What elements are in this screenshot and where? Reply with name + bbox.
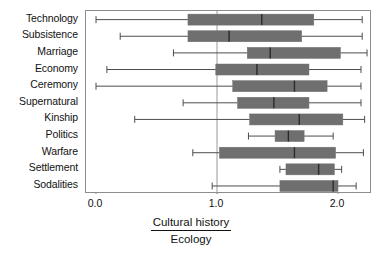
box-rect bbox=[286, 164, 334, 175]
box-rect bbox=[275, 131, 304, 142]
x-axis-tick-labels: 0.01.02.0 bbox=[0, 197, 382, 211]
box-rect bbox=[233, 81, 327, 92]
category-label-subsistence: Subsistence bbox=[22, 29, 78, 40]
category-label-settlement: Settlement bbox=[29, 162, 78, 173]
category-label-marriage: Marriage bbox=[37, 46, 78, 57]
category-label-technology: Technology bbox=[26, 13, 78, 24]
fraction-denominator: Ecology bbox=[151, 231, 232, 246]
x-axis-title: Cultural history Ecology bbox=[0, 215, 382, 247]
box-group-technology bbox=[96, 14, 362, 25]
box-rect bbox=[280, 180, 338, 191]
box-group-warfare bbox=[193, 147, 364, 158]
boxplot-series bbox=[86, 11, 372, 194]
fraction-numerator: Cultural history bbox=[151, 215, 232, 231]
box-group-settlement bbox=[280, 164, 342, 175]
box-rect bbox=[250, 114, 343, 125]
category-label-economy: Economy bbox=[35, 63, 78, 74]
plot-area bbox=[85, 10, 371, 193]
x-tick-1.0: 1.0 bbox=[209, 197, 224, 209]
box-group-supernatural bbox=[183, 97, 361, 108]
box-rect bbox=[188, 14, 314, 25]
box-group-politics bbox=[248, 131, 333, 142]
box-group-marriage bbox=[173, 47, 367, 58]
category-label-kinship: Kinship bbox=[44, 112, 78, 123]
category-label-supernatural: Supernatural bbox=[19, 96, 78, 107]
category-label-ceremony: Ceremony bbox=[30, 79, 78, 90]
box-group-economy bbox=[107, 64, 361, 75]
x-tick-2.0: 2.0 bbox=[330, 197, 345, 209]
x-tick-0.0: 0.0 bbox=[88, 197, 103, 209]
box-group-ceremony bbox=[96, 81, 361, 92]
box-group-kinship bbox=[135, 114, 365, 125]
category-label-politics: Politics bbox=[46, 129, 78, 140]
box-rect bbox=[247, 47, 340, 58]
category-axis-labels: TechnologySubsistenceMarriageEconomyCere… bbox=[0, 10, 82, 193]
fraction-label: Cultural history Ecology bbox=[151, 215, 232, 246]
box-rect bbox=[188, 31, 302, 42]
boxplot-figure: TechnologySubsistenceMarriageEconomyCere… bbox=[0, 0, 382, 267]
box-group-subsistence bbox=[120, 31, 362, 42]
box-rect bbox=[219, 147, 335, 158]
category-label-sodalities: Sodalities bbox=[33, 179, 78, 190]
box-group-sodalities bbox=[212, 180, 356, 191]
category-label-warfare: Warfare bbox=[42, 146, 78, 157]
box-rect bbox=[216, 64, 309, 75]
